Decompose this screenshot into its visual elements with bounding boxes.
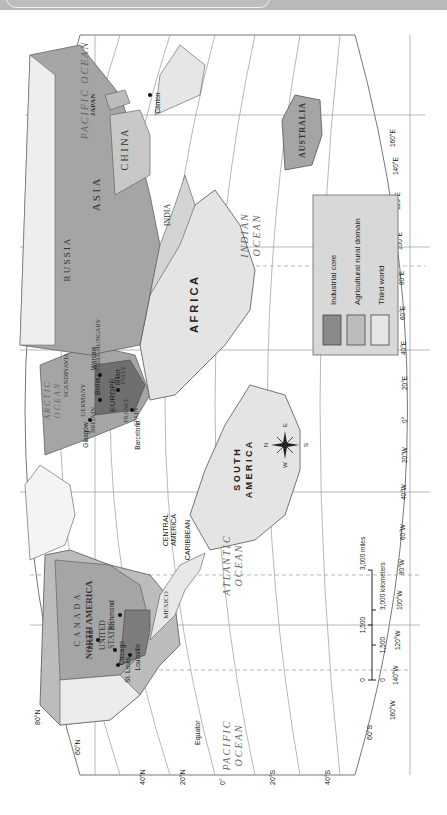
svg-text:OCEAN: OCEAN [251,214,262,257]
city-toronto: Toronto [87,629,94,651]
united-states-label: UNITED [98,620,107,650]
svg-text:60°W: 60°W [399,523,406,540]
arctic-ocean-label: ARCTIC [43,380,52,421]
svg-text:60°S: 60°S [366,724,373,740]
city-milan: Milan [114,369,121,385]
central-america-label: CENTRAL [162,514,169,547]
svg-text:Industrial core: Industrial core [329,254,338,305]
africa-label: A F R I C A [188,277,200,333]
world-map: ATLANTIC OCEAN PACIFIC OCEAN PACIFIC OCE… [0,0,447,815]
svg-text:20°W: 20°W [401,446,408,463]
svg-text:40°S: 40°S [324,769,331,785]
legend: Industrial core Agricultural rural domai… [313,195,398,355]
south-america-label: S O U T H [232,449,242,491]
svg-text:OCEAN: OCEAN [233,544,244,587]
atlantic-ocean-label: ATLANTIC [221,534,232,596]
city-barcelona: Barcelona [134,420,141,450]
svg-text:160°W: 160°W [389,700,396,720]
svg-text:60°N: 60°N [74,739,81,755]
canada-label: C A N A D A [73,593,82,646]
svg-text:100°W: 100°W [396,590,403,610]
compass-w: W [282,462,288,468]
svg-text:140°W: 140°W [392,665,399,685]
mexico-label: MEXICO [162,591,170,619]
svg-text:80°N: 80°N [34,709,41,725]
svg-text:1,500: 1,500 [359,616,366,633]
caribbean-label: CARIBBEAN [184,520,191,560]
svg-text:60°E: 60°E [399,305,406,320]
city-st-louis: St. Louis [124,657,131,683]
svg-text:AMERICA: AMERICA [170,514,177,546]
svg-text:80°W: 80°W [398,558,405,575]
city-canton: Canton [154,92,161,113]
pacific-ocean-east-label: PACIFIC OCEAN [79,41,90,140]
svg-text:1,500: 1,500 [379,636,386,653]
svg-text:0: 0 [379,678,386,682]
svg-text:120°W: 120°W [394,630,401,650]
city-glasgow: Glasgow [82,422,90,448]
russia-label: R U S S I A [62,238,72,281]
svg-text:20°N: 20°N [179,769,186,785]
svg-text:140°E: 140°E [392,157,399,175]
svg-text:0°: 0° [219,778,226,785]
scale-miles-label: 3,000 miles [359,536,366,570]
scandinavia-label: SCANDINAVIA [62,353,69,398]
svg-text:Agricultural rural domain: Agricultural rural domain [353,218,362,305]
city-warsaw: Warsaw [90,346,97,370]
compass-n: N [263,443,269,447]
svg-text:20°S: 20°S [269,769,276,785]
svg-text:160°E: 160°E [389,129,396,147]
svg-text:OCEAN: OCEAN [53,382,62,418]
asia-label: A S I A [90,179,102,212]
svg-text:Third world: Third world [377,265,386,305]
svg-text:20°E: 20°E [401,375,408,390]
japan-label: JAPAN [89,94,97,116]
svg-text:80°E: 80°E [398,270,405,285]
city-louisville: Louisville [134,643,141,670]
city-berlin: Berlin [94,378,101,395]
svg-text:0°: 0° [401,416,408,423]
svg-text:40°E: 40°E [400,340,407,355]
australia-label: AUSTRALIA [298,102,307,158]
pacific-ocean-west-label: PACIFIC [221,719,232,771]
svg-text:40°W: 40°W [400,483,407,500]
scale-km-label: 3,000 kilometers [379,562,386,610]
germany-label: GERMANY [79,383,86,416]
india-label: INDIA [163,203,172,226]
svg-text:A M E R I C A: A M E R I C A [244,441,254,498]
indian-ocean-label: INDIAN [239,212,250,258]
city-richmond: Richmond [108,600,115,630]
china-label: C H I N A [119,129,130,171]
france-label: FRANCE [122,397,129,423]
svg-text:OCEAN: OCEAN [233,724,244,767]
compass-e: E [282,423,288,427]
compass-s: S [303,443,309,447]
svg-text:0: 0 [359,678,366,682]
svg-text:40°N: 40°N [139,769,146,785]
equator-label: Equator [194,720,202,745]
